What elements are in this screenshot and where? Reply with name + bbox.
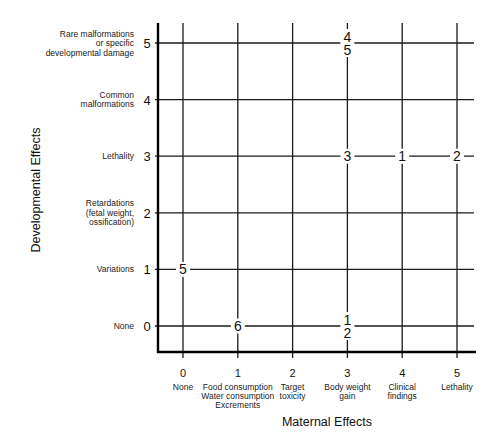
data-point-label: 1 xyxy=(398,148,406,164)
x-tick-label: Lethality xyxy=(441,382,473,392)
y-tick-number: 4 xyxy=(143,93,150,108)
x-tick-label: findings xyxy=(388,391,417,401)
data-point-label: 3 xyxy=(344,148,352,164)
x-tick-label: gain xyxy=(339,391,355,401)
data-points: 453125612 xyxy=(176,29,464,341)
y-tick-label: None xyxy=(114,321,135,331)
y-tick-label: Common xyxy=(100,90,135,100)
y-tick-label: Rare malformations xyxy=(60,29,134,39)
x-tick-number: 4 xyxy=(399,367,405,379)
x-axis-ticks: 0None1Food consumptionWater consumptionE… xyxy=(173,367,474,410)
y-tick-label: Lethality xyxy=(102,151,134,161)
x-tick-number: 0 xyxy=(180,367,186,379)
y-tick-number: 3 xyxy=(143,149,150,164)
y-tick-number: 2 xyxy=(143,206,150,221)
y-tick-number: 1 xyxy=(143,262,150,277)
x-tick-number: 3 xyxy=(344,367,350,379)
data-point-label: 2 xyxy=(453,148,461,164)
y-axis-ticks: 0None1Variations2Retardations(fetal weig… xyxy=(46,29,151,335)
y-tick-label: malformations xyxy=(81,99,134,109)
x-tick-number: 5 xyxy=(454,367,460,379)
x-tick-label: Excrements xyxy=(215,400,260,410)
x-tick-label: toxicity xyxy=(280,391,307,401)
y-tick-number: 5 xyxy=(143,36,150,51)
data-point-label: 2 xyxy=(344,325,352,341)
y-tick-label: Retardations xyxy=(86,198,134,208)
y-tick-label: Variations xyxy=(97,264,134,274)
data-point-label: 6 xyxy=(234,318,242,334)
chart: 0None1Variations2Retardations(fetal weig… xyxy=(0,0,499,445)
y-tick-label: or specific xyxy=(96,38,135,48)
y-axis-title: Developmental Effects xyxy=(29,128,43,253)
y-tick-label: (fetal weight, xyxy=(86,208,134,218)
data-point-label: 5 xyxy=(344,42,352,58)
y-tick-number: 0 xyxy=(143,319,150,334)
x-axis-title: Maternal Effects xyxy=(282,415,372,429)
grid-lines xyxy=(155,23,474,358)
x-tick-number: 1 xyxy=(235,367,241,379)
x-tick-label: None xyxy=(173,382,194,392)
y-tick-label: developmental damage xyxy=(46,48,135,58)
data-point-label: 5 xyxy=(179,261,187,277)
axes xyxy=(157,23,476,353)
x-tick-number: 2 xyxy=(290,367,296,379)
y-tick-label: ossification) xyxy=(89,217,134,227)
